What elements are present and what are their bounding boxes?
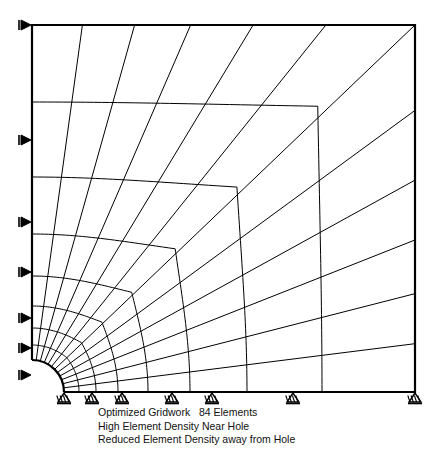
figure-caption: Optimized Gridwork 84 Elements High Elem… [98, 406, 398, 447]
left-edge-roller-supports [19, 20, 31, 380]
mesh-radial-lines [36, 25, 415, 388]
figure-canvas: Optimized Gridwork 84 Elements High Elem… [0, 0, 435, 469]
mesh-ring-lines [32, 102, 322, 392]
finite-element-mesh-diagram [0, 0, 435, 469]
caption-line-2: High Element Density Near Hole [98, 420, 398, 434]
caption-line-1: Optimized Gridwork 84 Elements [98, 406, 398, 420]
caption-line-3: Reduced Element Density away from Hole [98, 433, 398, 447]
bottom-edge-pin-supports [57, 393, 422, 404]
